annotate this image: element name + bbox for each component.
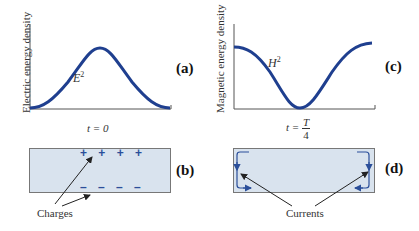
y-axis-label-magnetic: Magnetic energy density [214, 4, 226, 113]
magnetic-energy-curve [234, 43, 372, 108]
arrow-to-positive [55, 157, 92, 204]
curve-label-e2: E2 [73, 70, 84, 86]
panel-label-d: (d) [385, 160, 403, 177]
currents-caption: Currents [286, 207, 324, 219]
panel-label-a: (a) [176, 60, 194, 77]
electric-energy-plot [28, 20, 178, 112]
magnetic-energy-plot [232, 20, 382, 112]
time-label-t0: t = 0 [87, 122, 108, 134]
arrow-to-left-current [241, 174, 292, 206]
electric-energy-curve [30, 48, 170, 108]
panel-label-c: (c) [385, 58, 402, 75]
charges-arrows [0, 140, 210, 231]
fraction-t-over-4: T 4 [302, 116, 310, 141]
panel-label-b: (b) [176, 162, 194, 179]
curve-label-h2: H2 [268, 55, 281, 71]
arrow-to-negative [62, 195, 90, 206]
arrow-to-right-current [315, 172, 368, 206]
time-label-t-quarter: t = T 4 [286, 116, 310, 141]
charges-caption: Charges [37, 207, 73, 219]
